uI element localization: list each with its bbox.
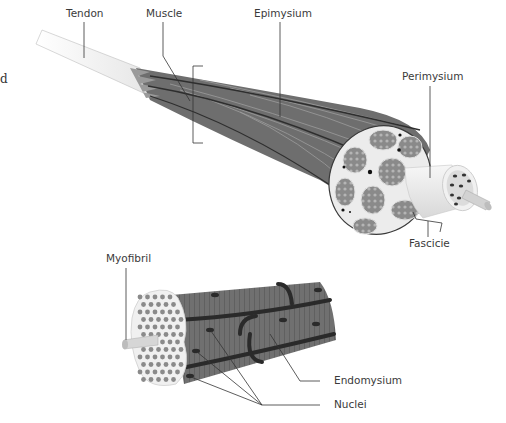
myofibril-dot — [175, 340, 180, 345]
myofibril-dot — [149, 362, 154, 367]
figure-canvas — [0, 0, 506, 423]
myofibril-dot — [156, 377, 161, 382]
myofibril-dot — [160, 310, 165, 315]
myofibril-dot — [153, 325, 158, 330]
myofibril-dot — [171, 362, 176, 367]
myofibril-dot — [168, 340, 173, 345]
myofibril-dot — [138, 370, 143, 375]
myofibril-dot — [153, 355, 158, 360]
myofibril-dot — [171, 317, 176, 322]
myofibril-dot — [141, 302, 146, 307]
myofibril-dot — [175, 370, 180, 375]
tendon-shape — [36, 30, 150, 96]
myofibril-dot — [171, 347, 176, 352]
myofibril-dot — [160, 295, 165, 300]
label-nuclei: Nuclei — [334, 398, 367, 410]
myofibril-dot — [141, 347, 146, 352]
myofibril-dot — [171, 377, 176, 382]
myofibril-dot — [164, 362, 169, 367]
myofibril-dot — [138, 355, 143, 360]
myofibril-dot — [160, 355, 165, 360]
upper-muscle-diagram — [36, 22, 493, 251]
myofibril-dot — [164, 332, 169, 337]
myofibril-dot — [145, 295, 150, 300]
myofibril-dot — [141, 362, 146, 367]
label-endomysium: Endomysium — [334, 374, 402, 386]
myofibril-dot — [168, 295, 173, 300]
myofibril-dot — [153, 370, 158, 375]
myofibril-dot — [156, 347, 161, 352]
myofibril-dot — [141, 332, 146, 337]
label-myofibril: Myofibril — [106, 252, 151, 264]
myofibril-dot — [168, 325, 173, 330]
nuclei-leader-3 — [191, 377, 262, 405]
label-epimysium: Epimysium — [254, 7, 312, 19]
myofibril-dot — [156, 362, 161, 367]
muscle-anatomy-figure: d Tendon Muscle Epimysium Perimysium Fas… — [0, 0, 506, 423]
myofibril-dot — [153, 295, 158, 300]
myofibril-dot — [156, 302, 161, 307]
label-perimysium: Perimysium — [402, 70, 463, 82]
myofibril-dot — [168, 370, 173, 375]
myofibril-dot — [179, 347, 184, 352]
myofibril-dot — [175, 310, 180, 315]
myofibril-dot — [149, 317, 154, 322]
myofibril-dot — [160, 325, 165, 330]
myofibril-dot — [164, 377, 169, 382]
myofibril-dot — [168, 310, 173, 315]
lower-fiber-diagram — [122, 268, 336, 405]
myofibril-dot — [156, 317, 161, 322]
myofibril-dot — [145, 370, 150, 375]
myofibril-dot — [171, 302, 176, 307]
myofibril-dot — [145, 355, 150, 360]
label-fascicle: Fascicie — [409, 237, 450, 249]
cut-off-text: d — [0, 72, 8, 86]
myofibril-dot — [179, 362, 184, 367]
myofibril-dot — [145, 325, 150, 330]
myofibril-dot — [160, 370, 165, 375]
myofibril-dot — [168, 355, 173, 360]
myofibril-dot — [153, 310, 158, 315]
myofibril-dot — [175, 355, 180, 360]
myofibril-dot — [164, 347, 169, 352]
myofibril-dot — [179, 317, 184, 322]
myofibril-dot — [179, 332, 184, 337]
label-muscle: Muscle — [146, 7, 182, 19]
myofibril-dot — [141, 377, 146, 382]
myofibril-dot — [138, 325, 143, 330]
myofibril-dot — [149, 347, 154, 352]
myofibril-dot — [171, 332, 176, 337]
myofibril-dot — [141, 317, 146, 322]
label-tendon: Tendon — [66, 7, 104, 19]
myofibril-dot — [160, 340, 165, 345]
myofibril-dot — [164, 302, 169, 307]
myofibril-dot — [138, 310, 143, 315]
myofibril-dot — [164, 317, 169, 322]
myofibril-dot — [145, 310, 150, 315]
myofibril-dot — [138, 295, 143, 300]
myofibril-dot — [149, 377, 154, 382]
myofibril-dot — [149, 302, 154, 307]
myofibril-dot — [175, 325, 180, 330]
